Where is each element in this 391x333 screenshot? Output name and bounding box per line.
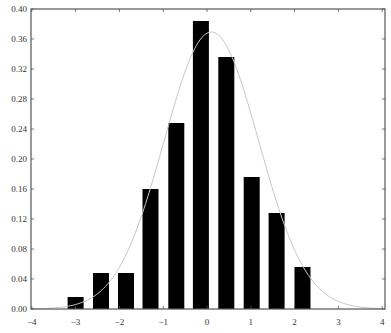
y-tick-label: 0.04 xyxy=(11,274,27,284)
histogram-bar xyxy=(295,267,311,309)
histogram-bar xyxy=(269,213,285,309)
histogram-bar xyxy=(118,273,134,309)
histogram-chart: 0.000.040.080.120.160.200.240.280.320.36… xyxy=(0,0,391,333)
y-tick-label: 0.08 xyxy=(11,244,27,254)
x-tick-label: 3 xyxy=(336,317,341,327)
x-tick-label: 4 xyxy=(380,317,385,327)
y-tick-label: 0.12 xyxy=(11,214,27,224)
x-tick-label: −3 xyxy=(71,317,81,327)
x-tick-label: 0 xyxy=(205,317,210,327)
histogram-bars xyxy=(68,21,311,309)
y-tick-label: 0.00 xyxy=(11,304,27,314)
histogram-bar xyxy=(244,177,260,309)
y-tick-label: 0.20 xyxy=(11,154,27,164)
y-tick-label: 0.40 xyxy=(11,4,27,14)
y-tick-label: 0.36 xyxy=(11,34,27,44)
x-tick-label: 2 xyxy=(292,317,297,327)
histogram-bar xyxy=(168,123,184,309)
x-tick-label: −2 xyxy=(115,317,125,327)
y-tick-label: 0.24 xyxy=(11,124,27,134)
histogram-bar xyxy=(218,57,234,309)
histogram-bar xyxy=(193,21,209,309)
y-tick-label: 0.16 xyxy=(11,184,27,194)
x-tick-label: 1 xyxy=(249,317,254,327)
x-tick-label: −4 xyxy=(27,317,37,327)
y-tick-label: 0.28 xyxy=(11,94,27,104)
x-tick-label: −1 xyxy=(158,317,168,327)
y-tick-label: 0.32 xyxy=(11,64,27,74)
